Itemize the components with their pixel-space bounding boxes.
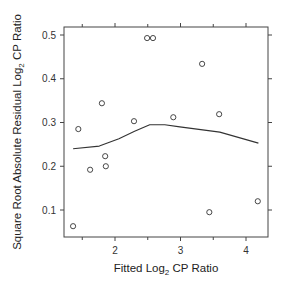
data-point [255,199,260,204]
x-tick-label: 3 [178,245,184,256]
data-point [150,35,155,40]
data-point [103,154,108,159]
data-point [217,112,222,117]
y-tick-label: 0.1 [42,205,56,216]
y-tick-label: 0.4 [42,73,56,84]
data-point [171,115,176,120]
chart: 2340.10.20.30.40.5Fitted Log2 CP RatioSq… [0,0,291,292]
y-tick-label: 0.5 [42,30,56,41]
x-tick-label: 4 [243,245,249,256]
smooth-curve [73,125,258,149]
y-axis-label: Square Root Absolute Residual Log2 CP Ra… [11,14,26,250]
y-tick-label: 0.2 [42,161,56,172]
plot-frame [64,27,268,237]
x-axis-label: Fitted Log2 CP Ratio [114,262,219,277]
data-point [131,119,136,124]
data-point [207,210,212,215]
data-point [200,61,205,66]
data-point [70,224,75,229]
data-point [99,101,104,106]
y-tick-label: 0.3 [42,117,56,128]
x-tick-label: 2 [112,245,118,256]
data-point [144,35,149,40]
data-point [88,167,93,172]
data-point [103,164,108,169]
data-point [76,126,81,131]
